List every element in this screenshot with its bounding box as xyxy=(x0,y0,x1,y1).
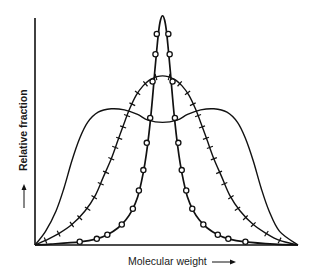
circle-marker xyxy=(215,232,220,237)
circle-marker xyxy=(94,236,99,241)
circle-marker xyxy=(190,206,195,211)
circle-marker xyxy=(144,140,149,145)
circle-marker xyxy=(179,167,184,172)
series-line xyxy=(35,16,298,245)
circle-marker xyxy=(153,52,158,57)
series-line xyxy=(35,76,298,245)
x-axis-label: Molecular weight xyxy=(128,255,238,267)
circle-marker xyxy=(105,232,110,237)
circle-marker xyxy=(130,206,135,211)
axes xyxy=(35,18,298,245)
y-axis-label: Relative fraction xyxy=(17,89,29,210)
right-arrow-icon xyxy=(210,258,238,266)
circle-marker xyxy=(167,52,172,57)
cross-tick-marker xyxy=(155,74,157,80)
circle-marker xyxy=(184,188,189,193)
series-narrow-distribution xyxy=(35,16,298,245)
circle-marker xyxy=(77,239,82,244)
series-intermediate-distribution xyxy=(35,74,298,245)
cross-tick-marker xyxy=(168,74,170,80)
circle-marker xyxy=(154,31,159,36)
series-broad-bimodal-distribution xyxy=(35,109,298,245)
circle-marker xyxy=(119,222,124,227)
circle-marker xyxy=(136,188,141,193)
circle-marker xyxy=(201,222,206,227)
circle-marker xyxy=(166,31,171,36)
chart xyxy=(0,0,310,278)
series-line xyxy=(35,109,298,245)
circle-marker xyxy=(226,236,231,241)
x-axis-label-text: Molecular weight xyxy=(128,255,207,267)
up-arrow-icon xyxy=(20,182,28,210)
y-axis-label-text: Relative fraction xyxy=(17,89,29,171)
circle-marker xyxy=(176,140,181,145)
circle-marker xyxy=(243,239,248,244)
circle-marker xyxy=(141,167,146,172)
